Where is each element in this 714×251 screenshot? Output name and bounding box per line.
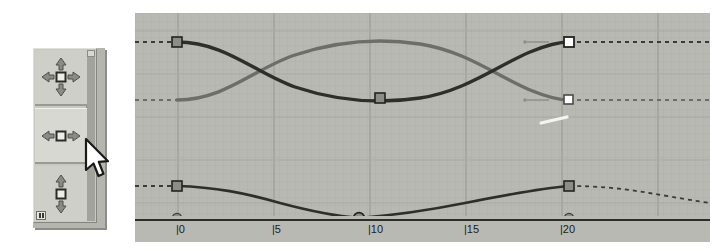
keyframe-handle-dark-upper-end[interactable]	[564, 37, 574, 47]
curve-gray-lower[interactable]	[177, 41, 569, 100]
extension-right-dark-valley	[569, 186, 710, 203]
axis-tick-0: |0	[176, 223, 185, 235]
palette-item-move-horizontal[interactable]	[35, 108, 87, 164]
axis-tick-20: |20	[560, 223, 575, 235]
keyframe-handle-valley-end[interactable]	[564, 181, 574, 191]
keyframe-handle-dark-upper-start[interactable]	[172, 37, 182, 47]
curve-dark-valley[interactable]	[177, 186, 569, 218]
transform-tool-palette[interactable]	[33, 48, 105, 228]
move-four-way-icon	[35, 50, 87, 104]
palette-inner-frame	[33, 48, 97, 223]
axis-tick-15: |15	[464, 223, 479, 235]
graph-curve-layer[interactable]	[135, 13, 710, 238]
palette-resize-grip[interactable]	[36, 211, 46, 220]
keyframe-handle-valley-start[interactable]	[172, 181, 182, 191]
keyframe-handle-gray-lower-end[interactable]	[564, 95, 573, 104]
keyframe-handle-dark-upper-mid[interactable]	[375, 93, 385, 103]
palette-item-move-free[interactable]	[35, 50, 87, 106]
palette-scrollbar[interactable]	[86, 50, 95, 221]
axis-baseline	[135, 219, 710, 221]
time-axis[interactable]: |0 |5 |10 |15 |20	[135, 216, 710, 242]
selection-marker-lower	[523, 98, 527, 102]
selection-marker-upper	[523, 40, 527, 44]
screenshot-root: |0 |5 |10 |15 |20	[0, 0, 714, 251]
curve-dark-upper[interactable]	[177, 42, 569, 101]
palette-scrollbar-thumb[interactable]	[87, 50, 95, 57]
function-curve-graph[interactable]	[135, 13, 710, 238]
highlight-streak	[541, 117, 567, 123]
move-horizontal-icon	[35, 109, 87, 162]
axis-tick-10: |10	[368, 223, 383, 235]
axis-tick-5: |5	[272, 223, 281, 235]
